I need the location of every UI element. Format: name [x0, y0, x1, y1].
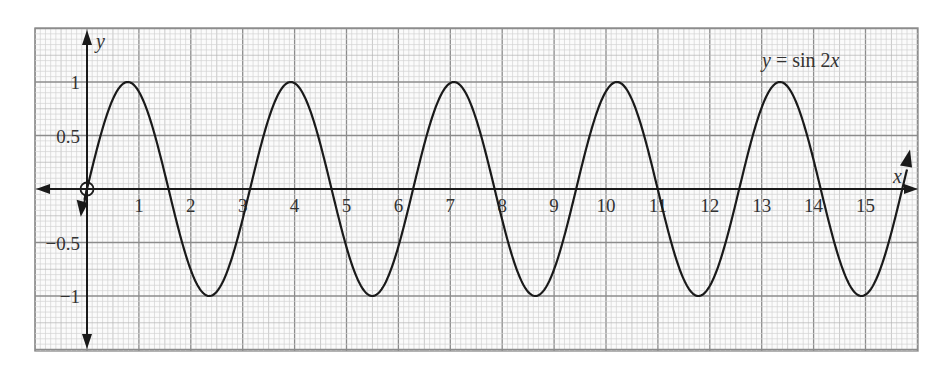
- svg-text:x: x: [892, 165, 902, 187]
- svg-text:2: 2: [186, 195, 196, 216]
- svg-text:5: 5: [342, 195, 352, 216]
- svg-text:6: 6: [394, 195, 404, 216]
- svg-text:13: 13: [752, 195, 771, 216]
- svg-text:7: 7: [446, 195, 456, 216]
- svg-text:−1: −1: [60, 286, 80, 307]
- svg-text:4: 4: [290, 195, 300, 216]
- svg-text:0.5: 0.5: [56, 126, 80, 147]
- svg-text:1: 1: [71, 72, 81, 93]
- svg-text:−0.5: −0.5: [46, 233, 80, 254]
- sine-graph: yx 12345678910111213141510.5−0.5−1 y = s…: [0, 0, 943, 371]
- svg-text:14: 14: [804, 195, 824, 216]
- svg-text:1: 1: [134, 195, 144, 216]
- svg-text:12: 12: [700, 195, 719, 216]
- svg-text:y: y: [94, 30, 105, 53]
- svg-text:15: 15: [856, 195, 875, 216]
- svg-text:10: 10: [597, 195, 616, 216]
- svg-text:9: 9: [549, 195, 559, 216]
- equation-label: y = sin 2x: [760, 49, 840, 72]
